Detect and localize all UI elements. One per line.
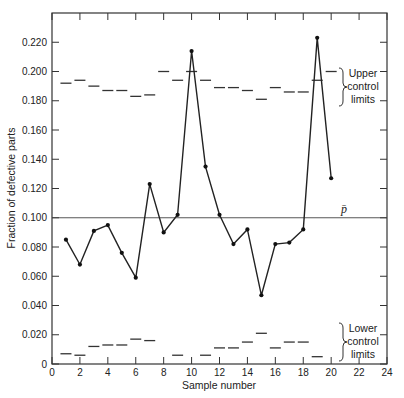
x-tick-label: 8 [161,367,167,378]
y-tick-label: 0.140 [22,154,47,165]
y-tick-label: 0 [41,359,47,370]
axis-ticks: 02468101214161820222400.0200.0400.0600.0… [22,13,393,378]
data-point [78,262,82,266]
y-tick-label: 0.040 [22,300,47,311]
x-tick-label: 0 [49,367,55,378]
data-point [217,213,221,217]
data-point [301,227,305,231]
x-tick-label: 6 [133,367,139,378]
y-tick-label: 0.220 [22,37,47,48]
y-tick-label: 0.160 [22,125,47,136]
data-point [162,230,166,234]
data-point [315,36,319,40]
upper-control-limits [60,72,336,100]
data-point [92,229,96,233]
x-tick-label: 24 [381,367,393,378]
x-tick-label: 2 [77,367,83,378]
y-tick-label: 0.120 [22,183,47,194]
x-tick-label: 22 [354,367,366,378]
data-point [148,182,152,186]
data-point [64,238,68,242]
data-point [245,227,249,231]
y-tick-label: 0.200 [22,66,47,77]
data-point [203,164,207,168]
plot-axes [52,13,387,364]
y-tick-label: 0.080 [22,242,47,253]
lower-limits-annotation: Lower [349,322,378,334]
lower-control-limits [60,333,322,356]
data-point [134,276,138,280]
brace-icon [339,323,347,361]
x-tick-label: 4 [105,367,111,378]
data-point [106,223,110,227]
data-point [189,49,193,53]
lower-limits-annotation: control [347,335,379,347]
x-axis-label: Sample number [182,379,257,391]
x-tick-label: 20 [326,367,338,378]
defect-fraction-line [66,38,331,295]
y-tick-label: 0.020 [22,329,47,340]
brace-icon [339,68,347,106]
plot-frame [52,13,387,364]
lower-limits-annotation: limits [351,348,375,360]
upper-limits-annotation: limits [351,93,375,105]
y-tick-label: 0.100 [22,212,47,223]
data-point [329,176,333,180]
x-tick-label: 18 [298,367,310,378]
x-tick-label: 10 [186,367,198,378]
data-point [287,241,291,245]
data-point [273,242,277,246]
control-chart: 02468101214161820222400.0200.0400.0600.0… [0,0,404,398]
p-bar-label: p̄ [340,202,347,216]
data-point [176,213,180,217]
y-axis-label: Fraction of defective parts [5,128,17,249]
data-series [64,36,333,298]
y-tick-label: 0.180 [22,95,47,106]
upper-limits-annotation: control [347,80,379,92]
x-tick-label: 14 [242,367,254,378]
data-point [231,242,235,246]
data-point [259,293,263,297]
y-tick-label: 0.060 [22,271,47,282]
x-tick-label: 16 [270,367,282,378]
data-point [120,251,124,255]
x-tick-label: 12 [214,367,226,378]
upper-limits-annotation: Upper [349,67,378,79]
